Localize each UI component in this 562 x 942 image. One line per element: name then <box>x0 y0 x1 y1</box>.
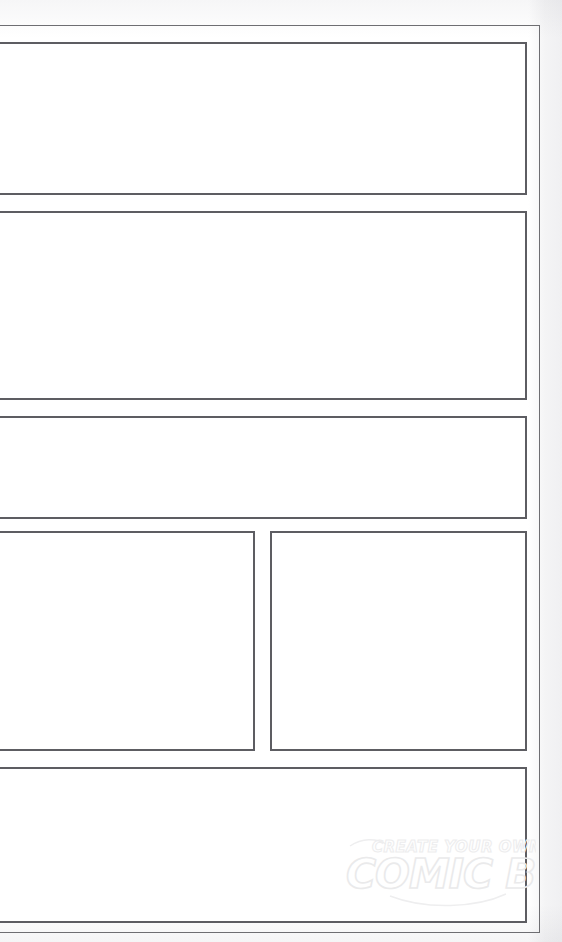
comic-panel-2[interactable] <box>0 211 527 400</box>
comic-panel-1[interactable] <box>0 42 527 195</box>
comic-panel-5[interactable] <box>270 531 527 751</box>
comic-panel-4[interactable] <box>0 531 255 751</box>
comic-panel-6[interactable] <box>0 767 527 923</box>
comic-page: CREATE YOUR OWN COMIC BOOK <box>0 0 562 942</box>
comic-panel-3[interactable] <box>0 416 527 519</box>
